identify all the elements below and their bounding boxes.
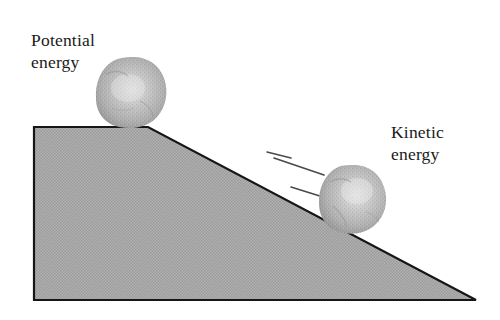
energy-diagram-figure: Potential energy Kinetic energy bbox=[0, 0, 500, 320]
rock-potential-highlight bbox=[111, 74, 145, 102]
potential-energy-label-line2: energy bbox=[31, 51, 95, 73]
motion-speed-lines bbox=[267, 152, 324, 197]
motion-line-3 bbox=[291, 187, 323, 197]
kinetic-energy-label-line1: Kinetic bbox=[391, 121, 444, 143]
rock-potential bbox=[96, 57, 167, 128]
motion-line-1 bbox=[267, 152, 291, 158]
potential-energy-label: Potential energy bbox=[31, 29, 95, 73]
kinetic-energy-label-line2: energy bbox=[391, 143, 444, 165]
motion-line-2 bbox=[274, 158, 324, 175]
rock-kinetic-highlight bbox=[341, 178, 373, 204]
rock-kinetic bbox=[319, 165, 386, 234]
kinetic-energy-label: Kinetic energy bbox=[391, 121, 444, 165]
potential-energy-label-line1: Potential bbox=[31, 29, 95, 51]
